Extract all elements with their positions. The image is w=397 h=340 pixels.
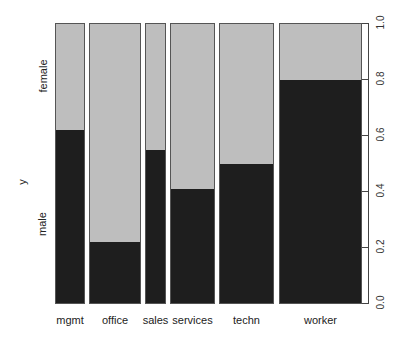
bar-techn	[219, 23, 274, 304]
tick-mark	[362, 79, 368, 80]
segment-male	[146, 150, 165, 303]
tick-label: 0.6	[375, 120, 386, 150]
segment-female	[280, 24, 361, 80]
bar-office	[89, 23, 141, 304]
segment-female	[171, 24, 214, 189]
right-axis-line	[368, 23, 369, 304]
bar-worker	[279, 23, 362, 304]
y-label-male: male	[36, 204, 48, 244]
segment-female	[220, 24, 273, 164]
segment-male	[90, 242, 140, 303]
segment-female	[90, 24, 140, 242]
tick-label: 1.0	[375, 8, 386, 38]
tick-label: 0.2	[375, 232, 386, 262]
y-axis-title: y	[16, 172, 28, 192]
segment-male	[220, 164, 273, 304]
bar-services	[170, 23, 215, 304]
segment-male	[171, 189, 214, 303]
segment-female	[146, 24, 165, 150]
tick-mark	[362, 191, 368, 192]
tick-mark	[362, 135, 368, 136]
tick-label: 0.8	[375, 64, 386, 94]
segment-male	[56, 130, 84, 303]
tick-label: 0.0	[375, 288, 386, 318]
bar-sales	[145, 23, 166, 304]
tick-mark	[362, 247, 368, 248]
tick-mark	[362, 303, 368, 304]
segment-male	[280, 80, 361, 303]
x-label-worker: worker	[269, 314, 372, 326]
spineplot-chart: y female male mgmtofficesalesservicestec…	[0, 0, 397, 340]
y-label-female: female	[37, 51, 49, 101]
tick-mark	[362, 23, 368, 24]
segment-female	[56, 24, 84, 130]
bar-mgmt	[55, 23, 85, 304]
tick-label: 0.4	[375, 176, 386, 206]
